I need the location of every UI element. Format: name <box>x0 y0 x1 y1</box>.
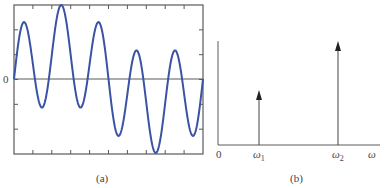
panel-b: 0 ω1 ω2 ω (b) <box>216 41 380 185</box>
impulse-omega1 <box>256 90 262 145</box>
caption-b: (b) <box>290 172 303 185</box>
omega1-label: ω1 <box>253 148 265 163</box>
arrow-head-icon <box>256 90 262 100</box>
omega2-sub: 2 <box>340 154 344 163</box>
impulse-omega2 <box>335 41 341 145</box>
panel-a: 0 (a) <box>3 5 203 185</box>
origin-label: 0 <box>216 148 222 160</box>
figure: 0 (a) 0 ω1 ω2 ω (b) <box>0 0 386 188</box>
caption-a: (a) <box>96 172 109 185</box>
arrow-head-icon <box>335 41 341 51</box>
omega1-sub: 1 <box>261 154 265 163</box>
omega2-label: ω2 <box>332 148 344 163</box>
y-zero-label: 0 <box>3 73 9 85</box>
x-axis-label-b: ω <box>368 148 376 160</box>
